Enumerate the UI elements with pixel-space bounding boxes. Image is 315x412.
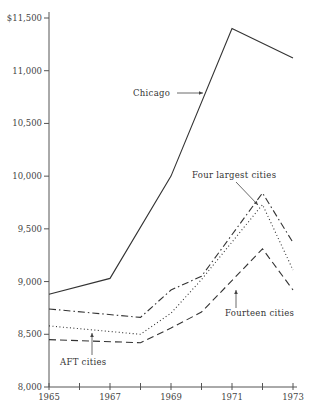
series-labels: ChicagoFour largest citiesAFT citiesFour… — [59, 88, 294, 367]
series-label: AFT cities — [59, 357, 106, 367]
x-tick-label: 1967 — [99, 392, 121, 402]
series-label: Fourteen cities — [225, 308, 294, 318]
x-tick-label: 1969 — [160, 392, 182, 402]
series-label: Chicago — [133, 88, 170, 98]
x-tick-label: 1973 — [282, 392, 304, 402]
series-line-chicago — [49, 29, 293, 295]
arrowhead-icon — [90, 333, 94, 337]
y-tick-label: $11,500 — [7, 13, 42, 23]
x-tick-label: 1971 — [221, 392, 243, 402]
axes: 8,0008,5009,0009,50010,00010,50011,000$1… — [7, 12, 304, 402]
y-tick-label: 8,500 — [18, 329, 42, 339]
y-tick-label: 8,000 — [18, 382, 42, 392]
y-tick-label: 11,000 — [12, 66, 42, 76]
y-tick-label: 10,500 — [12, 118, 42, 128]
arrowhead-icon — [199, 91, 203, 95]
series-lines — [49, 29, 293, 343]
y-tick-label: 9,500 — [18, 224, 42, 234]
line-chart: 8,0008,5009,0009,50010,00010,50011,000$1… — [0, 0, 315, 412]
series-label: Four largest cities — [192, 170, 276, 180]
y-tick-label: 10,000 — [12, 171, 42, 181]
arrowhead-icon — [234, 290, 238, 294]
x-tick-label: 1965 — [38, 392, 60, 402]
arrow-icon — [236, 182, 258, 205]
y-tick-label: 9,000 — [18, 277, 42, 287]
series-line-fourteen-cities — [49, 249, 293, 343]
series-line-four-largest-cities — [49, 193, 293, 317]
